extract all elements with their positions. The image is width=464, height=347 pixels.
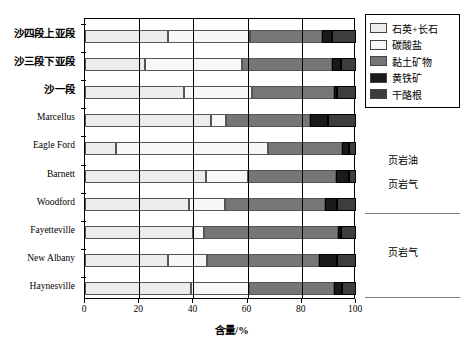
- legend-item-1: 碳酸盐: [370, 37, 456, 52]
- y-axis-label-9: Haynesville: [30, 282, 75, 292]
- x-tick-label-40: 40: [172, 304, 212, 314]
- bar-row: [85, 282, 356, 295]
- bar-segment-黏土矿物: [252, 86, 335, 99]
- bar-segment-石英+长石: [85, 30, 168, 43]
- bar-segment-石英+长石: [85, 254, 168, 267]
- annotation-1: 页岩气: [388, 176, 418, 191]
- y-tick: [81, 221, 86, 222]
- stacked-bar-chart: 沙四段上亚段沙三段下亚段沙一段MarcellusEagle FordBarnet…: [0, 0, 464, 347]
- bar-segment-干酪根: [337, 198, 356, 211]
- y-tick: [81, 108, 86, 109]
- x-axis-title: 含量/%: [0, 322, 464, 337]
- bar-segment-黄铁矿: [334, 282, 342, 295]
- legend-label-2: 黏土矿物: [392, 54, 432, 69]
- bar-segment-碳酸盐: [168, 30, 251, 43]
- bar-segment-干酪根: [341, 226, 356, 239]
- x-tick-label-0: 0: [64, 304, 104, 314]
- bar-segment-石英+长石: [85, 170, 206, 183]
- bar-segment-石英+长石: [85, 282, 191, 295]
- y-tick: [81, 193, 86, 194]
- legend: 石英+长石碳酸盐黏土矿物黄铁矿干酪根: [365, 14, 460, 108]
- bar-segment-黏土矿物: [250, 30, 322, 43]
- bar-segment-干酪根: [337, 254, 356, 267]
- y-tick: [81, 136, 86, 137]
- y-tick: [81, 52, 86, 53]
- y-axis-label-3: Marcellus: [37, 113, 75, 123]
- bar-row: [85, 226, 356, 239]
- bar-segment-石英+长石: [85, 198, 189, 211]
- annotation-2: 页岩气: [388, 244, 418, 259]
- y-axis-labels: 沙四段上亚段沙三段下亚段沙一段MarcellusEagle FordBarnet…: [0, 18, 80, 299]
- bar-segment-石英+长石: [85, 114, 211, 127]
- bar-segment-黄铁矿: [325, 198, 337, 211]
- bar-segment-黏土矿物: [242, 58, 331, 71]
- bar-segment-干酪根: [328, 114, 356, 127]
- annotation-0: 页岩油: [388, 152, 418, 167]
- bar-segment-黄铁矿: [336, 170, 350, 183]
- bar-segment-碳酸盐: [193, 226, 204, 239]
- bar-segment-黄铁矿: [310, 114, 328, 127]
- gridline-80: [302, 19, 303, 298]
- bar-segment-黏土矿物: [226, 114, 310, 127]
- bar-segment-黄铁矿: [322, 30, 331, 43]
- y-axis-label-0: 沙四段上亚段: [14, 29, 75, 40]
- bar-segment-干酪根: [341, 58, 356, 71]
- y-axis-label-1: 沙三段下亚段: [14, 57, 75, 68]
- y-axis-label-8: New Albany: [27, 254, 75, 264]
- bar-segment-干酪根: [332, 30, 356, 43]
- y-tick: [81, 24, 86, 25]
- bar-row: [85, 170, 356, 183]
- legend-swatch-kerogen: [370, 89, 387, 99]
- y-tick: [81, 165, 86, 166]
- legend-item-3: 黄铁矿: [370, 70, 456, 85]
- legend-item-2: 黏土矿物: [370, 54, 456, 69]
- bar-segment-黄铁矿: [319, 254, 337, 267]
- bar-segment-干酪根: [349, 170, 356, 183]
- y-axis-label-4: Eagle Ford: [33, 141, 75, 151]
- y-axis-label-5: Barnett: [47, 170, 75, 180]
- legend-item-4: 干酪根: [370, 87, 456, 102]
- bar-segment-碳酸盐: [211, 114, 226, 127]
- legend-swatch-carbonate: [370, 40, 387, 50]
- legend-swatch-pyrite: [370, 73, 387, 83]
- y-axis-label-2: 沙一段: [44, 85, 75, 96]
- annotation-divider-0: [365, 213, 460, 214]
- bar-row: [85, 114, 356, 127]
- bar-segment-干酪根: [337, 86, 356, 99]
- bar-row: [85, 30, 356, 43]
- x-tick-0: [84, 299, 85, 303]
- bar-segment-黄铁矿: [342, 142, 349, 155]
- x-tick-20: [138, 299, 139, 303]
- x-tick-40: [192, 299, 193, 303]
- bar-segment-黏土矿物: [204, 226, 338, 239]
- bar-segment-碳酸盐: [191, 282, 249, 295]
- bar-segment-石英+长石: [85, 86, 184, 99]
- y-axis-label-7: Fayetteville: [30, 226, 75, 236]
- x-tick-60: [247, 299, 248, 303]
- bar-segment-碳酸盐: [168, 254, 207, 267]
- bar-segment-石英+长石: [85, 142, 116, 155]
- bar-row: [85, 58, 356, 71]
- y-tick: [81, 249, 86, 250]
- bar-segment-碳酸盐: [206, 170, 248, 183]
- bar-segment-黏土矿物: [249, 282, 334, 295]
- gridline-60: [248, 19, 249, 298]
- annotation-divider-1: [365, 297, 460, 298]
- bar-segment-黄铁矿: [332, 58, 341, 71]
- x-tick-100: [355, 299, 356, 303]
- legend-label-3: 黄铁矿: [392, 70, 422, 85]
- bar-row: [85, 86, 356, 99]
- bar-segment-干酪根: [342, 282, 356, 295]
- x-tick-label-80: 80: [281, 304, 321, 314]
- bar-segment-干酪根: [349, 142, 356, 155]
- bar-segment-黏土矿物: [268, 142, 343, 155]
- bar-row: [85, 254, 356, 267]
- legend-item-0: 石英+长石: [370, 21, 456, 36]
- bar-row: [85, 198, 356, 211]
- bar-segment-碳酸盐: [189, 198, 224, 211]
- x-tick-label-20: 20: [118, 304, 158, 314]
- legend-label-0: 石英+长石: [392, 21, 438, 36]
- plot-area: [84, 18, 355, 299]
- y-tick: [81, 277, 86, 278]
- bar-segment-石英+长石: [85, 58, 145, 71]
